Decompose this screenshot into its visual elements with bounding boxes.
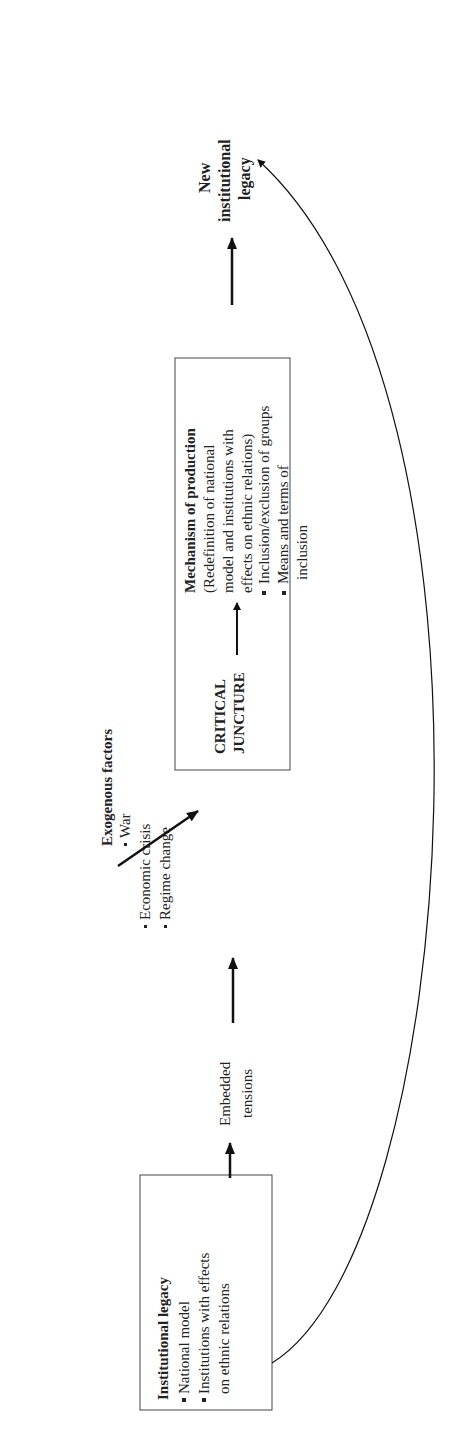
- mechanism-desc-3: effects on ethnic relations): [239, 434, 256, 593]
- new-legacy-line2: institutional: [216, 139, 233, 222]
- exogenous-item-war: War: [117, 813, 133, 838]
- new-legacy-line1: New: [196, 162, 213, 193]
- mechanism-title: Mechanism of production: [182, 428, 198, 593]
- diagram-canvas: Institutional legacy National model Inst…: [0, 0, 469, 1448]
- legacy-item-ethnic-relations: on ethnic relations: [216, 1283, 232, 1394]
- new-legacy-line3: legacy: [236, 157, 254, 200]
- critical-juncture-line1: CRITICAL: [212, 679, 228, 754]
- legacy-item-institutions: Institutions with effects: [196, 1252, 212, 1394]
- exogenous-item-economic-crisis: Economic crisis: [137, 824, 153, 920]
- exogenous-item-regime-change: Regime change: [157, 827, 173, 920]
- critical-juncture-line2: JUNCTURE: [231, 672, 247, 754]
- mechanism-desc-2: model and institutions with: [220, 429, 236, 593]
- mechanism-desc-1: (Redefinition of national: [201, 445, 218, 593]
- mechanism-item-inclusion: inclusion: [294, 525, 310, 580]
- mechanism-item-means-terms: Means and terms of: [275, 465, 291, 584]
- legacy-item-national-model: National model: [176, 1301, 192, 1394]
- mechanism-item-inclusion-exclusion: Inclusion/exclusion of groups: [256, 406, 272, 584]
- embedded-tensions-line1: Embedded: [217, 1061, 233, 1126]
- institutional-legacy-title: Institutional legacy: [155, 1277, 171, 1400]
- embedded-tensions-line2: tensions: [239, 1069, 255, 1118]
- exogenous-factors-title: Exogenous factors: [99, 729, 115, 846]
